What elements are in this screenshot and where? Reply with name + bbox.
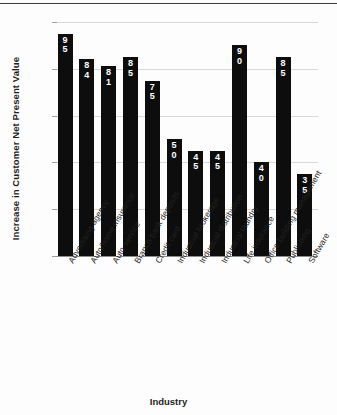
chart-figure: Increase in Customer Net Present Value 0… bbox=[0, 0, 337, 415]
x-axis-tick-labels: Advertising agencyAuto/home insuranceAut… bbox=[0, 0, 337, 415]
x-tick-label: Software bbox=[306, 231, 331, 265]
x-axis-title: Industry bbox=[0, 396, 337, 407]
